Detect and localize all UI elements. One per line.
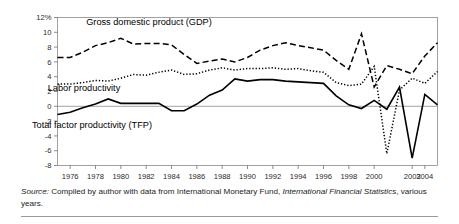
- caption-publication-title: International Financial Statistics: [282, 187, 396, 196]
- x-tick-label: 1982: [138, 172, 155, 181]
- x-tick-label: 1988: [214, 172, 231, 181]
- x-tick-label: 1994: [290, 172, 307, 181]
- series-annotations: Gross domestic product (GDP)Labor produc…: [32, 17, 212, 130]
- y-tick-label: 10: [43, 28, 51, 37]
- series-annotation: Gross domestic product (GDP): [86, 17, 212, 27]
- y-tick-label: 4: [47, 72, 51, 81]
- figure-caption: Source: Compiled by author with data fro…: [21, 186, 441, 209]
- y-tick-label: -8: [45, 161, 52, 170]
- y-tick-label: 0: [47, 102, 51, 111]
- x-tick-label: 2004: [416, 172, 433, 181]
- y-tick-label: -6: [45, 146, 52, 155]
- caption-source-label: Source:: [21, 187, 49, 196]
- x-tick-label: 2000: [366, 172, 383, 181]
- y-tick-label: 8: [47, 43, 51, 52]
- x-tick-label: 1984: [163, 172, 180, 181]
- x-tick-label: 1986: [188, 172, 205, 181]
- x-tick-label: 1976: [62, 172, 79, 181]
- series-lines: [58, 34, 438, 158]
- x-tick-label: 1978: [87, 172, 104, 181]
- y-tick-label: 6: [47, 58, 51, 67]
- x-tick-label: 1996: [315, 172, 332, 181]
- x-tick-label: 1992: [264, 172, 281, 181]
- x-tick-label: 1980: [112, 172, 129, 181]
- y-tick-label: 12%: [36, 13, 51, 22]
- y-tick-label: -4: [45, 132, 52, 141]
- line-chart: 12%1086420-2-4-6-8 197619781980198219841…: [0, 0, 459, 186]
- series-annotation: Total factor productivity (TFP): [32, 120, 152, 130]
- x-tick-label: 1990: [239, 172, 256, 181]
- x-tick-label: 1998: [340, 172, 357, 181]
- series-line: [58, 66, 438, 153]
- x-axis-ticks: 1976197819801982198419861988199019921994…: [62, 166, 434, 182]
- series-annotation: Labor productivity: [48, 83, 121, 93]
- bottom-divider: [21, 216, 438, 217]
- figure-container: 12%1086420-2-4-6-8 197619781980198219841…: [0, 0, 459, 224]
- caption-text-before: Compiled by author with data from Intern…: [49, 187, 283, 196]
